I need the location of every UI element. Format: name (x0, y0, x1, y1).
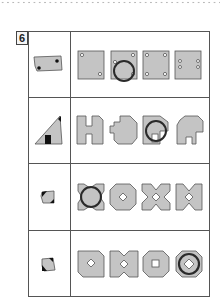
row-3-option-2[interactable] (110, 184, 136, 210)
row-1-option-1[interactable] (78, 51, 104, 79)
row-1-prompt (34, 56, 62, 71)
puzzle-figures (0, 0, 220, 308)
row-2-option-2[interactable] (110, 116, 137, 144)
row-2-option-3[interactable] (143, 116, 168, 144)
row-4-option-2[interactable] (110, 251, 138, 277)
row-3-option-4[interactable] (176, 184, 202, 210)
row-4-option-4[interactable] (176, 251, 202, 277)
row-1-option-3[interactable] (143, 51, 169, 79)
row-2-option-4[interactable] (177, 116, 203, 144)
row-3-option-3[interactable] (142, 184, 170, 210)
row-4-option-3[interactable] (143, 251, 169, 277)
row-4-prompt (42, 258, 55, 271)
row-3-prompt (41, 191, 54, 203)
row-1-option-2[interactable] (111, 51, 137, 81)
row-2-option-1[interactable] (77, 116, 103, 144)
row-2-prompt (35, 116, 62, 144)
row-3-option-1[interactable] (78, 184, 104, 210)
row-1-option-4[interactable] (175, 51, 201, 79)
row-4-option-1[interactable] (78, 251, 104, 277)
